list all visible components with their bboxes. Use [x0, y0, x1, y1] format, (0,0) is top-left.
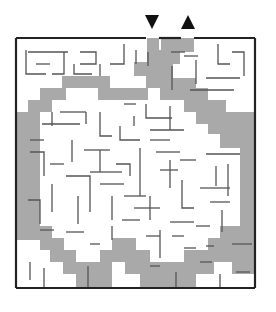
maze-canvas — [0, 0, 276, 312]
maze-puzzle — [0, 0, 276, 312]
